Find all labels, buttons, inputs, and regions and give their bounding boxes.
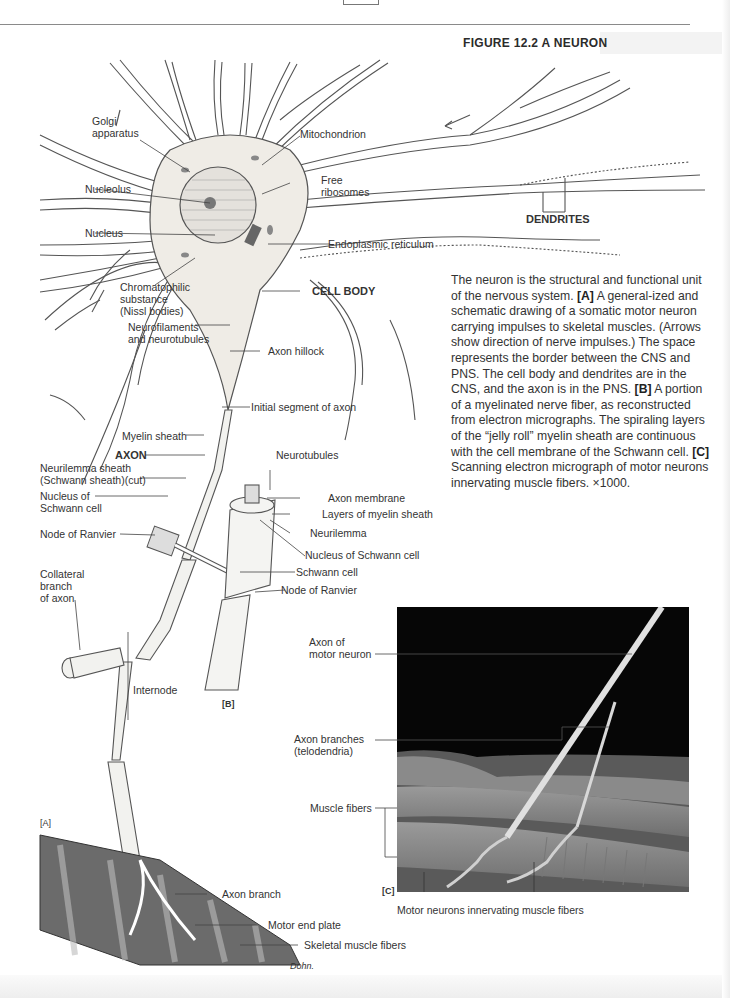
label-neurotubules: Neurotubules — [276, 449, 338, 461]
label-mitochondrion: Mitochondrion — [300, 128, 366, 140]
caption-tag-c: [C] — [692, 445, 709, 459]
label-neurilemma-sheath: Neurilemma sheath (Schwann sheath)(cut) — [40, 462, 146, 486]
label-axon-branches: Axon branches (telodendria) — [294, 733, 364, 757]
label-golgi-apparatus: Golgi apparatus — [92, 115, 139, 139]
label-nucleus: Nucleus — [85, 227, 123, 239]
label-node-of-ranvier: Node of Ranvier — [40, 528, 116, 540]
label-schwann-cell: Schwann cell — [296, 566, 358, 578]
label-axon-of-motor-neuron: Axon of motor neuron — [309, 636, 371, 660]
label-axon-hillock: Axon hillock — [268, 345, 324, 357]
label-internode: Internode — [133, 684, 177, 696]
label-neurilemma: Neurilemma — [310, 527, 367, 539]
panel-a-tag: [A] — [40, 817, 51, 829]
artist-signature: Dohn. — [290, 960, 314, 972]
label-muscle-fibers: Muscle fibers — [310, 802, 372, 814]
label-skeletal-muscle-fibers: Skeletal muscle fibers — [304, 939, 406, 951]
figure-caption: The neuron is the structural and functio… — [451, 273, 713, 491]
label-chromatophilic-substance: Chromatophilic substance (Nissl bodies) — [120, 281, 190, 317]
label-axon-membrane: Axon membrane — [328, 492, 405, 504]
label-free-ribosomes: Free ribosomes — [321, 174, 369, 198]
sem-micrograph — [397, 607, 689, 892]
panel-c-tag: [C] — [382, 885, 395, 897]
caption-tag-b: [B] — [635, 382, 652, 396]
label-nucleus-of-schwann-cell: Nucleus of Schwann cell — [40, 490, 102, 514]
label-axon-branch: Axon branch — [222, 888, 281, 900]
caption-tag-a: [A] — [577, 289, 594, 303]
label-myelin-sheath: Myelin sheath — [122, 430, 187, 442]
label-neurofilaments: Neurofilaments and neurotubules — [128, 321, 209, 345]
label-dendrites: DENDRITES — [526, 213, 590, 225]
label-motor-end-plate: Motor end plate — [268, 919, 341, 931]
caption-text-a: A general-ized and schematic drawing of … — [451, 289, 701, 397]
label-axon: AXON — [115, 449, 147, 461]
page-edge-shade — [722, 0, 730, 998]
label-nucleus-of-schwann-cell-b: Nucleus of Schwann cell — [305, 549, 419, 561]
label-motor-neurons-innervating: Motor neurons innervating muscle fibers — [397, 904, 584, 916]
label-nucleolus: Nucleolus — [85, 183, 131, 195]
page-bottom-shade — [0, 975, 730, 998]
panel-b-tag: [B] — [222, 698, 235, 710]
label-endoplasmic-reticulum: Endoplasmic reticulum — [328, 238, 434, 250]
label-initial-segment: Initial segment of axon — [251, 401, 356, 413]
label-cell-body: CELL BODY — [312, 285, 375, 297]
label-layers-of-myelin-sheath: Layers of myelin sheath — [322, 508, 433, 520]
label-node-of-ranvier-b: Node of Ranvier — [281, 584, 357, 596]
caption-text-c: Scanning electron micrograph of motor ne… — [451, 460, 708, 490]
label-collateral-branch: Collateral branch of axon — [40, 568, 84, 604]
